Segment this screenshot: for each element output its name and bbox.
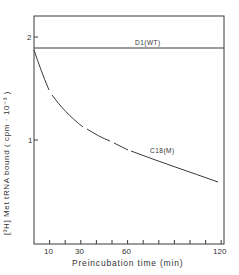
chart-canvas: 2 1 10 30 60 120 D1(WT) C18(M) (0, 0, 239, 275)
x-tick-label-30: 30 (75, 247, 84, 256)
x-axis-label: Preincubation time (min) (72, 258, 183, 268)
y-tick-label-1: 1 (28, 136, 33, 145)
series-c18-line (34, 50, 218, 182)
x-ticks (50, 240, 222, 244)
x-tick-label-60: 60 (122, 247, 131, 256)
y-axis-label: [³H] Met tRNA bound ( cpm · 10⁻³ ) (2, 91, 11, 235)
series-c18-label: C18(M) (150, 147, 175, 155)
x-tick-label-10: 10 (44, 247, 53, 256)
plot-frame (34, 16, 224, 244)
series-d1-label: D1(WT) (135, 39, 161, 47)
y-tick-label-2: 2 (27, 33, 32, 42)
x-tick-label-120: 120 (213, 247, 227, 256)
